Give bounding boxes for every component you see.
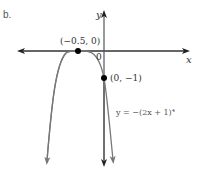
y-intercept-label: (0, −1)	[110, 73, 142, 83]
graph: b. y x (−0.5, 0) (0, −1) 0 y = −(2x + 1)…	[0, 0, 199, 169]
small-label: 0	[96, 52, 102, 62]
point-vertex	[75, 48, 81, 54]
point-y-intercept	[101, 75, 107, 81]
curve	[47, 51, 113, 160]
part-label: b.	[3, 9, 11, 20]
equation-label: y = −(2x + 1)⁴	[115, 108, 175, 117]
y-axis-label: y	[95, 9, 102, 20]
vertex-label: (−0.5, 0)	[60, 36, 100, 46]
x-axis-label: x	[186, 54, 192, 65]
